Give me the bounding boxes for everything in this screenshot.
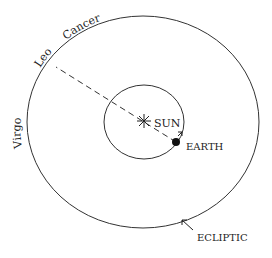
earth-icon: [172, 138, 180, 146]
line-of-sight: [56, 67, 176, 142]
sun-label: SUN: [154, 117, 181, 130]
constellation-label-leo: Leo: [32, 45, 55, 70]
constellation-label-virgo: Virgo: [10, 117, 25, 151]
ecliptic-label: ECLIPTIC: [197, 232, 248, 243]
ecliptic-diagram: SUN EARTH ECLIPTIC Virgo Leo Cancer: [0, 0, 272, 258]
earth-label: EARTH: [186, 141, 224, 152]
sun-icon: [137, 114, 151, 128]
diagram-canvas: SUN EARTH ECLIPTIC Virgo Leo Cancer: [0, 0, 272, 258]
constellation-label-cancer: Cancer: [60, 11, 103, 42]
ecliptic-pointer-arrow-icon: [182, 220, 193, 230]
